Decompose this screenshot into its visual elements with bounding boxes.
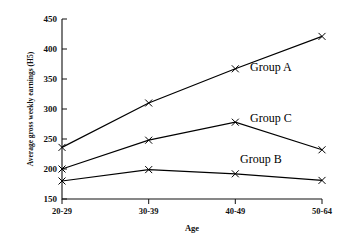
chart-figure: 450 400 350 300 250 200 150 20-29 30-39 … [0, 0, 339, 239]
x-tick-marks [62, 199, 322, 204]
series-group-a [59, 33, 326, 151]
x-tick-label-40-49: 40-49 [225, 206, 245, 216]
series-markers-group-b [59, 166, 326, 184]
line-chart-canvas: 450 400 350 300 250 200 150 20-29 30-39 … [0, 0, 339, 239]
x-axis-title: Age [185, 223, 199, 233]
x-tick-label-20-29: 20-29 [52, 206, 72, 216]
series-label-group-a: Group A [250, 60, 292, 74]
y-tick-label-450: 450 [44, 14, 58, 24]
series-group-c [59, 119, 326, 173]
y-tick-label-200: 200 [44, 164, 58, 174]
y-axis-title: Average gross weekly earnings (H5) [26, 51, 35, 166]
y-tick-label-300: 300 [44, 104, 58, 114]
x-tick-label-50-64: 50-64 [312, 206, 333, 216]
x-tick-label-30-39: 30-39 [139, 206, 159, 216]
y-tick-label-350: 350 [44, 74, 58, 84]
series-markers-group-c [59, 119, 326, 173]
series-line-group-c [62, 122, 322, 169]
series-group-b [59, 166, 326, 184]
series-line-group-b [62, 170, 322, 181]
y-tick-label-250: 250 [44, 134, 58, 144]
y-tick-label-400: 400 [44, 44, 58, 54]
series-label-group-c: Group C [250, 111, 292, 125]
series-label-group-b: Group B [240, 152, 282, 166]
y-tick-label-150: 150 [44, 194, 58, 204]
